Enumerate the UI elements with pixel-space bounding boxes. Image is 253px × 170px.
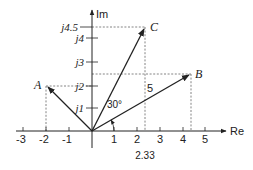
point-a-label: A — [33, 78, 42, 92]
y-tick-label: j1 — [73, 102, 84, 114]
y-tick-label: j4 — [73, 32, 84, 44]
y-tick-label: j3 — [73, 56, 84, 68]
angle-arc — [111, 120, 114, 131]
complex-plane-diagram: -3 -2 -1 1 2 3 4 5 2.33 j1 j2 j3 j4 j4.5… — [0, 0, 253, 170]
x-tick-label: -3 — [16, 133, 26, 145]
imaginary-axis-label: Im — [96, 8, 108, 20]
diagram-canvas: -3 -2 -1 1 2 3 4 5 2.33 j1 j2 j3 j4 j4.5… — [0, 0, 253, 170]
y-tick-labels: j1 j2 j3 j4 j4.5 — [59, 21, 84, 114]
point-c-label: C — [150, 20, 159, 34]
x-tick-label: 2 — [134, 133, 140, 145]
x-tick-label: 5 — [202, 133, 208, 145]
magnitude-label: 5 — [147, 82, 153, 94]
x-tick-label: 1 — [111, 133, 117, 145]
y-tick-label: j2 — [73, 80, 84, 92]
point-b-label: B — [195, 67, 203, 81]
y-tick-label: j4.5 — [59, 21, 78, 33]
x-tick-labels: -3 -2 -1 1 2 3 4 5 — [16, 133, 208, 145]
real-axis-label: Re — [230, 125, 244, 137]
x-tick-label: 4 — [180, 133, 186, 145]
x-annotation-2-33: 2.33 — [135, 150, 155, 161]
phasors — [48, 29, 189, 131]
phasor-a — [48, 87, 92, 131]
x-tick-label: -1 — [62, 133, 72, 145]
angle-label: 30° — [107, 99, 122, 110]
x-tick-label: 3 — [157, 133, 163, 145]
x-tick-label: -2 — [39, 133, 49, 145]
